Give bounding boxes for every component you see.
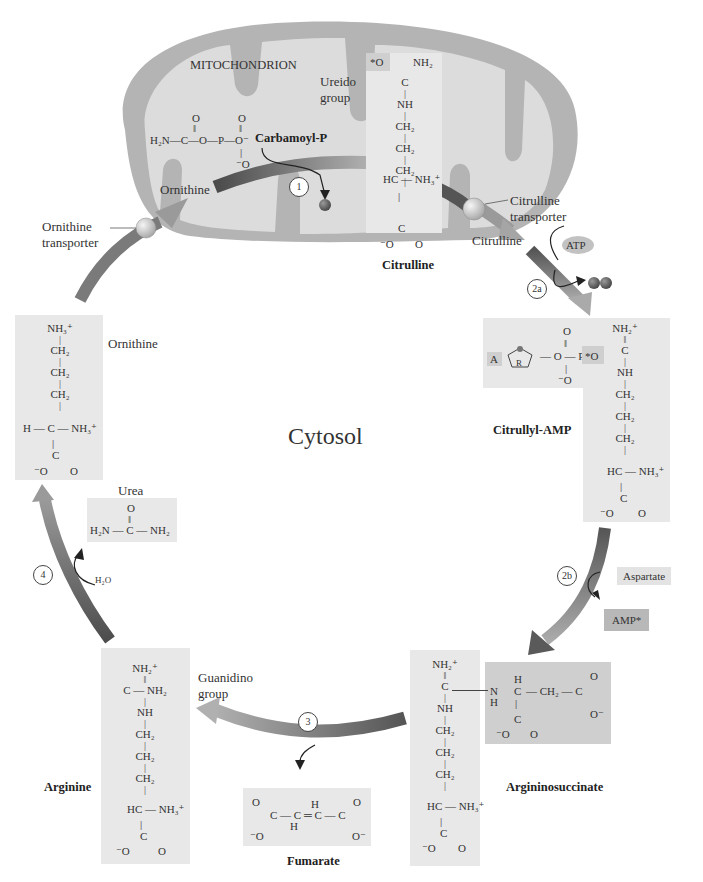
fumarate-name: Fumarate bbox=[287, 854, 340, 869]
citrulline-name: Citrulline bbox=[382, 258, 434, 273]
bond-c-n bbox=[452, 690, 488, 691]
ureido-label: Ureidogroup bbox=[320, 74, 356, 106]
urea-label: Urea bbox=[118, 483, 143, 499]
citrulline-transporter-label: Citrullinetransporter bbox=[510, 193, 566, 225]
cytosol-label: Cytosol bbox=[288, 423, 363, 450]
ornithine-transporter-label: Ornithinetransporter bbox=[42, 219, 98, 251]
amp-tag: AMP* bbox=[604, 609, 649, 631]
argininosuccinate-name: Argininosuccinate bbox=[506, 780, 603, 795]
citrullyl-amp-chain: NH₂⁺‖ C| NH| CH₂| CH₂| CH₂| bbox=[605, 322, 645, 454]
urea-formula: H₂N — C — NH₂ bbox=[90, 524, 170, 537]
carbamoyl-p-name: Carbamoyl-P bbox=[255, 131, 327, 146]
ornithine-transporter bbox=[136, 218, 156, 238]
atp-label: ATP bbox=[566, 239, 586, 251]
adenine-label: A bbox=[490, 353, 498, 366]
step-3-badge: 3 bbox=[298, 712, 318, 732]
fumarate-arrow bbox=[300, 745, 315, 762]
citrulline-hc-nh3: HC — NH₃⁺ bbox=[383, 173, 440, 186]
step2b-arrow bbox=[545, 528, 605, 640]
pi-icon bbox=[319, 199, 331, 211]
fumarate-chain: C — C ═ C — C bbox=[270, 809, 346, 822]
arginine-name: Arginine bbox=[44, 780, 91, 795]
arginine-chain: NH₂⁺‖ C — NH₂| NH| CH₂| CH₂| CH₂| bbox=[125, 662, 165, 794]
citrulline-transporter bbox=[463, 198, 485, 220]
citrulline-nh2: NH₂ bbox=[413, 56, 433, 69]
water-label: H₂O bbox=[95, 574, 111, 587]
step-1-badge: 1 bbox=[289, 177, 309, 197]
argininosuccinate-chain: NH₂⁺‖ C| NH| CH₂| CH₂| CH₂| bbox=[425, 658, 465, 790]
step-4-badge: 4 bbox=[33, 565, 53, 585]
citrullyl-amp-name: Citrullyl-AMP bbox=[493, 423, 571, 438]
aspartate-tag: Aspartate bbox=[617, 567, 671, 585]
ornithine-cytosol-label: Ornithine bbox=[108, 336, 158, 352]
ornithine-chain: NH₃⁺| CH₂| CH₂| CH₂| bbox=[40, 322, 80, 410]
step-2a-badge: 2a bbox=[527, 279, 547, 299]
mitochondrion-label: MITOCHONDRION bbox=[190, 58, 297, 73]
step-2b-badge: 2b bbox=[557, 566, 577, 586]
ppi-icon-2 bbox=[600, 277, 612, 289]
atp-arrow bbox=[550, 226, 564, 260]
ppi-icon-1 bbox=[588, 277, 600, 289]
citrulline-star-o: *O bbox=[370, 56, 383, 69]
citrulline-cytosol-label: Citrulline bbox=[472, 233, 522, 249]
guanidino-label: Guanidinogroup bbox=[198, 670, 253, 702]
ornithine-mito-label: Ornithine bbox=[160, 182, 210, 198]
citrulline-chain: C| NH| CH₂| CH₂| CH₂| bbox=[390, 76, 420, 186]
